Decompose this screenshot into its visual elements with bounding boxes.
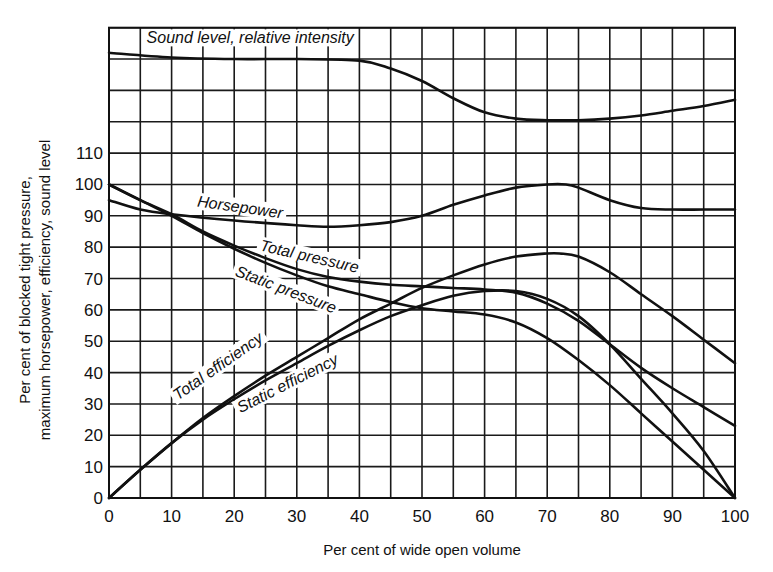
x-tick-label: 80 bbox=[600, 507, 619, 526]
label-total-pressure: Total pressure bbox=[256, 236, 364, 277]
x-tick-label: 40 bbox=[350, 507, 369, 526]
y-tick-label: 60 bbox=[84, 301, 103, 320]
x-tick-label: 100 bbox=[721, 507, 749, 526]
x-tick-label: 0 bbox=[104, 507, 113, 526]
y-axis-label-line-1: Per cent of blocked tight pressure, bbox=[16, 176, 33, 404]
fan-performance-chart: Sound level, relative intensityHorsepowe… bbox=[0, 0, 773, 572]
y-tick-label: 90 bbox=[84, 207, 103, 226]
y-tick-label: 110 bbox=[76, 144, 103, 163]
y-tick-label: 0 bbox=[94, 489, 103, 508]
x-tick-label: 60 bbox=[475, 507, 494, 526]
y-axis-label-line-2: maximum horsepower, efficiency, sound le… bbox=[36, 140, 53, 440]
y-tick-label: 70 bbox=[84, 270, 103, 289]
x-tick-label: 70 bbox=[538, 507, 557, 526]
svg-text:Total pressure: Total pressure bbox=[259, 237, 361, 276]
label-sound-level-relative-intensity: Sound level, relative intensity bbox=[144, 29, 358, 46]
x-tick-label: 90 bbox=[663, 507, 682, 526]
svg-text:Static efficiency: Static efficiency bbox=[234, 350, 342, 416]
y-tick-label: 50 bbox=[84, 332, 103, 351]
y-tick-label: 30 bbox=[84, 395, 103, 414]
y-axis-ticks: 0102030405060708090100110 bbox=[75, 144, 103, 508]
y-tick-label: 80 bbox=[84, 238, 103, 257]
x-axis-label: Per cent of wide open volume bbox=[323, 541, 521, 558]
x-tick-label: 10 bbox=[162, 507, 181, 526]
svg-text:Sound level, relative intensit: Sound level, relative intensity bbox=[147, 29, 355, 46]
y-tick-label: 20 bbox=[84, 426, 103, 445]
y-tick-label: 100 bbox=[75, 175, 103, 194]
y-axis-label: Per cent of blocked tight pressure, maxi… bbox=[16, 140, 53, 440]
grid-lines bbox=[109, 28, 735, 498]
x-axis-ticks: 0102030405060708090100 bbox=[104, 507, 749, 526]
y-tick-label: 10 bbox=[84, 458, 103, 477]
y-tick-label: 40 bbox=[84, 364, 103, 383]
x-tick-label: 50 bbox=[413, 507, 432, 526]
x-tick-label: 20 bbox=[225, 507, 244, 526]
x-tick-label: 30 bbox=[287, 507, 306, 526]
